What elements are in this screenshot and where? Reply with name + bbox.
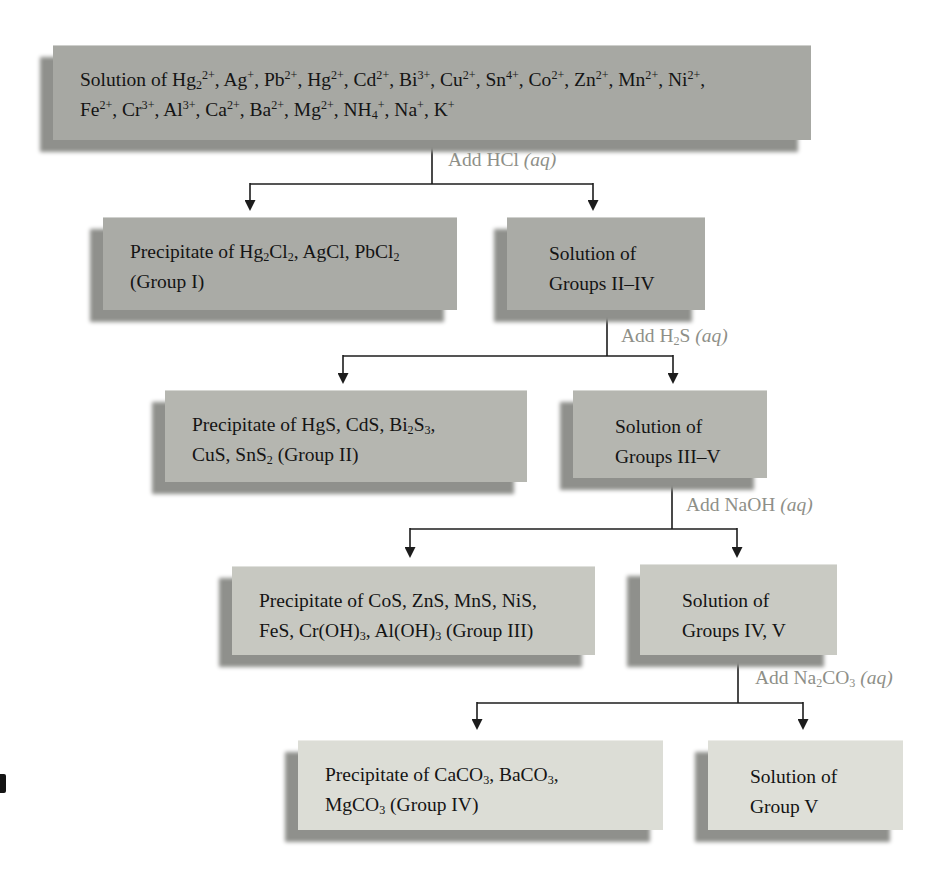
box-solution-groups-2-4: Solution ofGroups II–IV [507,217,705,310]
box-solution-group-5: Solution ofGroup V [708,740,903,830]
connector-step3 [410,479,737,556]
box-solution-groups-4-5: Solution ofGroups IV, V [640,564,837,655]
reagent-label-hcl: Add HCl (aq) [448,149,556,171]
box-initial-solution: Solution of Hg22+, Ag+, Pb2+, Hg2+, Cd2+… [53,45,811,140]
box-solution-groups-3-5: Solution ofGroups III–V [573,390,767,478]
box-group4-precipitate: Precipitate of CaCO3, BaCO3,MgCO3 (Group… [298,740,663,830]
box-group1-precipitate: Precipitate of Hg2Cl2, AgCl, PbCl2(Group… [103,217,457,310]
reagent-label-na2co3: Add Na2CO3 (aq) [755,667,893,689]
flowchart-canvas: Solution of Hg22+, Ag+, Pb2+, Hg2+, Cd2+… [0,0,941,884]
box-group2-precipitate: Precipitate of HgS, CdS, Bi2S3,CuS, SnS2… [165,390,527,482]
reagent-label-naoh: Add NaOH (aq) [686,494,813,516]
page-edge-text-fragment [0,774,6,793]
box-group3-precipitate: Precipitate of CoS, ZnS, MnS, NiS,FeS, C… [232,566,595,655]
reagent-label-h2s: Add H2S (aq) [621,325,728,347]
